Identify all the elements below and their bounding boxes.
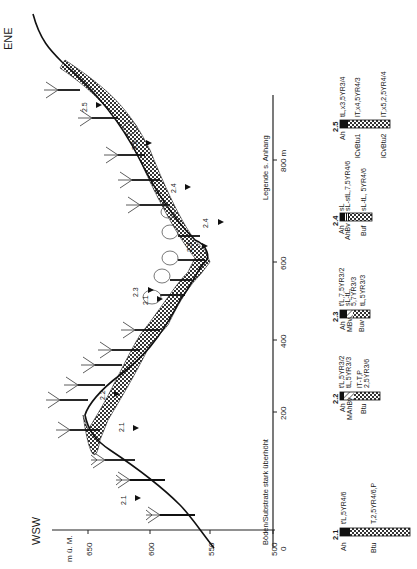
svg-text:Btu: Btu [360,403,367,414]
distance-tick-0: 0 [279,546,288,551]
soil-substrate-band [60,60,210,455]
svg-text:lCvBtu1: lCvBtu1 [354,133,361,158]
elevation-unit-label: m ü. M. [65,535,74,562]
svg-text:tL,5YR3/3: tL,5YR3/3 [345,357,352,388]
svg-text:Buv: Buv [358,319,365,332]
distance-tick-600: 600 [279,256,288,270]
soil-profile-2-4: 2.4 Ah AhBv Buf sL sL-stL,7,5YR4/6 sL-tL… [331,161,372,240]
svg-text:2.3: 2.3 [132,287,139,297]
svg-text:2.1: 2.1 [120,495,127,505]
svg-text:2.1: 2.1 [118,422,125,432]
svg-text:Ah: Ah [339,403,346,412]
svg-text:sL-stL,7,5YR4/6: sL-stL,7,5YR4/6 [344,161,351,211]
profile-marker: 2.4 [202,218,224,228]
svg-text:MAhBv: MAhBv [346,397,353,420]
soil-profile-2-2: 2.2 Ah MAhBv Btu t'L,5YR3/2 tL,5YR3/3 lT… [331,355,380,420]
svg-text:2,5YR3/6: 2,5YR3/6 [363,359,370,388]
svg-text:tL,5YR3/3: tL,5YR3/3 [359,275,366,306]
svg-text:T,2,5YR4/6,P: T,2,5YR4/6,P [370,482,377,524]
svg-text:Btu: Btu [370,542,377,553]
svg-text:t'L,5YR3/2: t'L,5YR3/2 [338,355,345,388]
profile-id: 2.2 [331,394,340,404]
svg-text:Ah: Ah [339,131,346,140]
distance-axis: 0 200 400 600 800 m Böden/Substrate star… [261,95,288,551]
distance-tick-800: 800 m [279,149,288,172]
distance-tick-200: 200 [279,406,288,420]
soil-catena-diagram: WSW ENE m ü. M. 650 600 550 500 0 200 40… [0,0,417,569]
soil-profile-2-1: 2.1 Ah t'L,5YR4/6 Btu T,2,5YR4/6,P [331,482,410,553]
svg-text:2.3: 2.3 [186,242,193,252]
elevation-tick-650: 650 [85,542,94,556]
svg-text:tL,x3,5YR3/4: tL,x3,5YR3/4 [339,76,346,117]
profile-marker: 2.1 [120,495,141,505]
svg-text:2.5: 2.5 [131,140,138,150]
svg-text:t'L,5YR4/6: t'L,5YR4/6 [340,491,347,524]
svg-text:sL-tL, 5YR4/6: sL-tL, 5YR4/6 [360,168,367,211]
profile-marker: 2.4 [170,183,191,193]
svg-text:Ah: Ah [339,321,346,330]
profile-marker: 2.5 [81,102,102,112]
distance-tick-400: 400 [279,334,288,348]
direction-label-wsw: WSW [30,516,42,545]
soil-profile-2-3: 2.3 Ah MBv Buv t'L,7,5YR3/2 sL-tL, 5,7YR… [331,268,370,332]
svg-text:lT-T,P: lT-T,P [356,370,363,388]
svg-text:Buf: Buf [360,225,367,236]
svg-text:2.4: 2.4 [170,183,177,193]
svg-text:2.5: 2.5 [81,102,88,112]
profile-id: 2.4 [331,215,340,226]
elevation-axis: m ü. M. 650 600 550 500 [52,530,279,562]
svg-text:MBv: MBv [346,318,353,333]
elevation-tick-600: 600 [147,542,156,556]
direction-label-ene: ENE [2,27,14,50]
svg-text:5,7YR3/3: 5,7YR3/3 [350,277,357,306]
exaggeration-note: Böden/Substrate stark überhöht [261,438,270,545]
svg-text:lT,x5,2,5YR4/4: lT,x5,2,5YR4/4 [380,71,387,117]
profile-marker: 2.1 [118,422,139,432]
svg-text:AhBv: AhBv [344,223,351,240]
profile-id: 2.3 [331,312,340,322]
svg-text:lT,x4,5YR4/3: lT,x4,5YR4/3 [354,77,361,117]
legend-note: Legende s. Anhang [261,135,270,200]
svg-text:Ah: Ah [340,542,347,551]
svg-text:2.2: 2.2 [99,390,106,400]
profile-marker: 2.1 [142,295,163,305]
profile-id: 2.1 [331,530,340,540]
tree-symbols [44,82,205,523]
profile-id: 2.5 [331,122,340,132]
svg-text:2.1: 2.1 [142,295,149,305]
svg-text:lCvBtu2: lCvBtu2 [380,133,387,158]
svg-text:2.4: 2.4 [202,218,209,228]
soil-profile-2-5: 2.5 Ah lCvBtu1 lCvBtu2 tL,x3,5YR3/4 lT,x… [331,71,390,158]
elevation-tick-500: 500 [270,542,279,556]
